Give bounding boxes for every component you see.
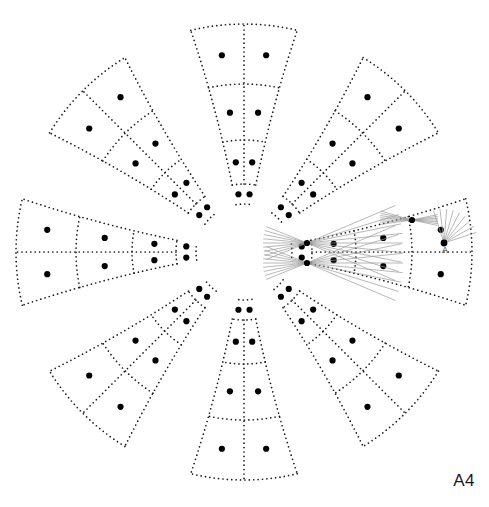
cell-center-dot xyxy=(102,263,108,269)
cell-center-dot xyxy=(152,357,158,363)
cell-center-dot xyxy=(151,257,157,263)
petal-arc xyxy=(284,290,301,307)
cell-center-dot xyxy=(152,140,158,146)
inner-marker-dot xyxy=(235,307,241,313)
cell-center-dot xyxy=(172,306,178,312)
cell-center-dot xyxy=(396,125,402,131)
inner-marker-dot xyxy=(204,204,210,210)
ray-line xyxy=(307,244,401,263)
petal-arc xyxy=(308,314,337,344)
petal-arc xyxy=(187,196,204,213)
inner-marker-dot xyxy=(286,212,292,218)
annotation-ray xyxy=(444,216,465,243)
cell-center-dot xyxy=(329,140,335,146)
petal-sw xyxy=(50,281,217,447)
cell-center-dot xyxy=(44,271,50,277)
petal-side-edge xyxy=(50,290,189,371)
cell-center-dot xyxy=(44,227,50,233)
petal-arc xyxy=(222,139,263,143)
petal-center-divider xyxy=(17,251,177,253)
ray-origin-dot xyxy=(304,240,310,246)
cell-center-dot xyxy=(349,160,355,166)
petal-arc xyxy=(362,57,438,132)
petal-group xyxy=(15,23,473,481)
cell-center-dot xyxy=(219,52,225,58)
petal-nw xyxy=(49,58,215,225)
cell-center-dot xyxy=(255,388,261,394)
petal-arc xyxy=(49,58,124,134)
annotation-label-a: A xyxy=(442,245,448,255)
petal-side-edge xyxy=(125,58,206,197)
inner-marker-dot xyxy=(278,204,284,210)
petal-arc xyxy=(206,281,217,292)
cell-center-dot xyxy=(329,357,335,363)
petal-center-divider xyxy=(243,319,245,479)
cell-center-dot xyxy=(249,159,255,165)
petal-arc xyxy=(150,160,179,190)
cell-center-dot xyxy=(233,159,239,165)
cell-center-dot xyxy=(255,110,261,116)
sheet-label: A4 xyxy=(453,472,475,489)
cell-center-dot xyxy=(117,404,123,410)
cell-center-dot xyxy=(438,271,444,277)
petal-se xyxy=(273,279,439,446)
petal-center-divider xyxy=(83,299,197,413)
petal-side-edge xyxy=(299,290,438,371)
petal-side-edge xyxy=(255,31,298,186)
cell-center-dot xyxy=(102,235,108,241)
petal-arc xyxy=(50,372,126,447)
cell-center-dot xyxy=(263,446,269,452)
cell-center-dot xyxy=(132,337,138,343)
petal-s xyxy=(191,298,299,480)
petal-side-edge xyxy=(191,318,234,473)
petal-side-edge xyxy=(282,58,363,197)
petal-center-divider xyxy=(83,91,197,205)
petal-arc xyxy=(131,233,135,274)
cell-center-dot xyxy=(183,318,189,324)
cell-center-dot xyxy=(227,110,233,116)
petal-side-edge xyxy=(282,307,363,446)
petal-side-edge xyxy=(191,31,234,186)
petal-arc xyxy=(353,230,357,271)
inner-dot-group xyxy=(183,191,305,313)
ray-line xyxy=(307,263,401,282)
petal-arc xyxy=(235,203,250,205)
petal-arc xyxy=(188,292,205,309)
radial-petal-diagram: A xyxy=(0,0,489,507)
ray-origin-dot xyxy=(304,260,310,266)
petal-side-edge xyxy=(310,263,465,306)
petal-side-edge xyxy=(299,133,438,214)
cell-center-dot xyxy=(310,191,316,197)
petal-arc xyxy=(238,298,253,300)
inner-marker-dot xyxy=(204,294,210,300)
petal-arc xyxy=(175,241,178,265)
petal-arc xyxy=(231,183,255,186)
cell-center-dot xyxy=(219,446,225,452)
petal-side-edge xyxy=(255,318,298,473)
petal-arc xyxy=(204,214,215,225)
petal-center-divider xyxy=(243,25,245,185)
cell-center-dot xyxy=(263,52,269,58)
inner-marker-dot xyxy=(196,286,202,292)
inner-marker-dot xyxy=(196,212,202,218)
petal-arc xyxy=(306,158,336,187)
cell-center-dot xyxy=(364,94,370,100)
petal-arc xyxy=(282,195,299,212)
petal-center-divider xyxy=(291,299,405,413)
cell-center-dot xyxy=(86,372,92,378)
inner-marker-dot xyxy=(183,254,189,260)
cell-center-dot xyxy=(396,372,402,378)
inner-marker-dot xyxy=(278,294,284,300)
cell-center-dot xyxy=(183,180,189,186)
annotation-ray xyxy=(444,221,470,243)
cell-center-dot xyxy=(233,339,239,345)
cell-center-dot xyxy=(310,306,316,312)
inner-marker-dot xyxy=(235,191,241,197)
cell-center-dot xyxy=(132,160,138,166)
cell-center-dot xyxy=(298,180,304,186)
ray-origin-dot xyxy=(409,217,415,223)
petal-arc xyxy=(364,370,439,446)
petal-side-edge xyxy=(23,263,178,306)
petal-arc xyxy=(192,473,298,481)
petal-n xyxy=(190,23,298,205)
